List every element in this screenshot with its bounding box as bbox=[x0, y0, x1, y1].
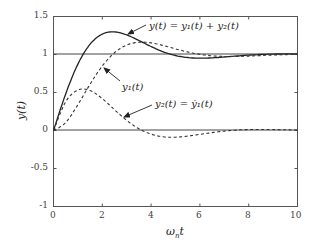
x-tick-4: 4 bbox=[148, 210, 154, 220]
y-tick-1-5: 1.5 bbox=[34, 10, 48, 20]
y-tick-0-5: 0.5 bbox=[34, 86, 48, 96]
annotation-y-total: y(t) = y₁(t) + y₂(t) bbox=[149, 20, 239, 31]
x-tick-2: 2 bbox=[99, 210, 105, 220]
y-axis-label: y(t) bbox=[15, 101, 28, 120]
x-tick-8: 8 bbox=[245, 210, 251, 220]
y-tick-0: 0 bbox=[42, 124, 48, 134]
annotation-y1: y₁(t) bbox=[122, 81, 143, 92]
x-tick-10: 10 bbox=[290, 210, 301, 220]
series-y-total bbox=[54, 32, 298, 131]
y-tick-neg-0-5: -0.5 bbox=[31, 162, 48, 172]
x-tick-0: 0 bbox=[50, 210, 56, 220]
arrow-y1 bbox=[104, 68, 120, 81]
arrow-y-total bbox=[128, 25, 146, 34]
x-axis-label-t: t bbox=[180, 225, 184, 238]
x-axis-label: ωnt bbox=[166, 225, 184, 240]
x-tick-6: 6 bbox=[196, 210, 202, 220]
y-tick-1: 1 bbox=[42, 48, 48, 58]
x-axis-label-omega: ω bbox=[166, 225, 175, 238]
y-tick-neg-1: -1 bbox=[39, 200, 48, 210]
arrow-y2 bbox=[124, 105, 152, 117]
annotation-y2: y₂(t) = ẏ₁(t) bbox=[155, 98, 213, 109]
